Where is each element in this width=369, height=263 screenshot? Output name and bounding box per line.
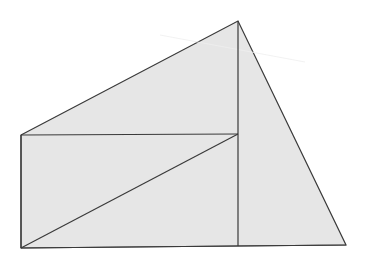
geometry-diagram [0, 0, 369, 263]
